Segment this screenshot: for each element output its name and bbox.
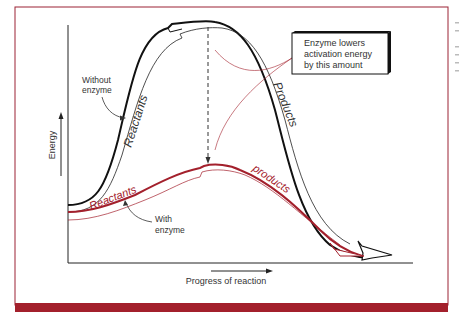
callout-line-3: by this amount	[304, 60, 363, 70]
x-axis-label: Progress of reaction	[186, 276, 267, 286]
bottom-bar	[15, 303, 448, 312]
with-enzyme-label-1: With	[155, 214, 172, 224]
with-enzyme-label-2: enzyme	[155, 225, 185, 235]
y-axis-label: Energy	[47, 130, 57, 159]
without-enzyme-label-2: enzyme	[82, 85, 112, 95]
callout-line-2: activation energy	[304, 49, 373, 59]
without-enzyme-label-1: Without	[82, 75, 111, 85]
enzyme-energy-diagram: Energy Progress of reaction Enzyme lower…	[0, 0, 462, 319]
callout-line-1: Enzyme lowers	[304, 38, 366, 48]
margin-text-marks	[455, 22, 459, 72]
